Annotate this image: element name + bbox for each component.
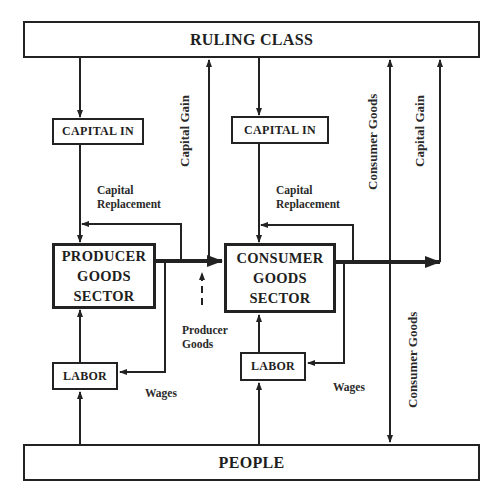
wages-right-label: Wages [333,380,365,394]
consumer-line-1: CONSUMER [237,248,324,268]
capital-in-producer-label: CAPITAL IN [62,124,134,139]
labor-producer-label: LABOR [63,369,107,384]
consumer-line-3: SECTOR [249,288,310,308]
capital-replacement-right-label: Capital Replacement [276,183,340,211]
people-label: PEOPLE [219,454,285,472]
ruling-class-box: RULING CLASS [23,21,480,58]
consumer-line-2: GOODS [253,268,307,288]
labor-consumer-box: LABOR [240,352,306,381]
producer-goods-sector-box: PRODUCER GOODS SECTOR [52,243,156,309]
capital-in-consumer-label: CAPITAL IN [244,123,316,138]
labor-consumer-label: LABOR [251,359,295,374]
producer-line-3: SECTOR [73,286,134,306]
capital-in-consumer-box: CAPITAL IN [231,116,329,144]
consumer-goods-sector-box: CONSUMER GOODS SECTOR [224,243,336,313]
wages-left-label: Wages [145,386,177,400]
capital-in-producer-box: CAPITAL IN [52,118,144,145]
producer-goods-label: Producer Goods [182,323,228,351]
consumer-goods-lower-label: Consumer Goods [405,312,421,408]
capital-replacement-left-label: Capital Replacement [97,183,161,211]
capital-gain-left-label: Capital Gain [177,95,193,167]
people-box: PEOPLE [23,444,480,481]
consumer-goods-upper-label: Consumer Goods [365,94,381,190]
producer-line-2: GOODS [77,266,131,286]
ruling-class-label: RULING CLASS [190,31,313,49]
labor-producer-box: LABOR [52,362,118,390]
producer-line-1: PRODUCER [62,246,147,266]
capital-gain-right-label: Capital Gain [412,95,428,167]
